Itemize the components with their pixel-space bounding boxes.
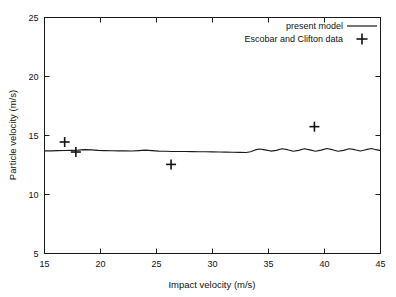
- x-tick-label: 40: [319, 259, 329, 269]
- y-tick-label: 5: [33, 249, 38, 259]
- chart-legend: present modelEscobar and Clifton data: [244, 21, 377, 44]
- y-axis-ticks: [45, 77, 381, 195]
- model-curve: [45, 148, 381, 152]
- series-present-model: [45, 148, 381, 152]
- x-tick-label: 35: [263, 259, 273, 269]
- x-axis-tick-labels: 15202530354045: [39, 259, 385, 269]
- y-tick-label: 20: [28, 72, 38, 82]
- chart-canvas: 15202530354045 510152025 Impact velocity…: [0, 0, 396, 297]
- data-point-marker: [309, 122, 319, 132]
- data-point-marker: [71, 147, 81, 157]
- x-tick-label: 25: [151, 259, 161, 269]
- series-escobar-clifton-data: [60, 122, 320, 170]
- y-tick-label: 15: [28, 131, 38, 141]
- x-tick-label: 45: [375, 259, 385, 269]
- chart-figure: 15202530354045 510152025 Impact velocity…: [0, 0, 396, 297]
- x-tick-label: 30: [207, 259, 217, 269]
- y-tick-label: 10: [28, 190, 38, 200]
- x-tick-label: 15: [39, 259, 49, 269]
- data-point-marker: [60, 137, 70, 147]
- legend-plus-swatch: [357, 34, 368, 45]
- x-axis-ticks: [101, 18, 325, 254]
- legend-label: present model: [286, 21, 343, 31]
- legend-label: Escobar and Clifton data: [244, 34, 343, 44]
- x-axis-title: Impact velocity (m/s): [168, 279, 255, 290]
- x-tick-label: 20: [95, 259, 105, 269]
- y-axis-title: Particle velocity (m/s): [7, 90, 18, 180]
- plot-frame: [45, 18, 381, 254]
- y-tick-label: 25: [28, 13, 38, 23]
- data-point-marker: [166, 159, 176, 169]
- y-axis-tick-labels: 510152025: [28, 13, 38, 259]
